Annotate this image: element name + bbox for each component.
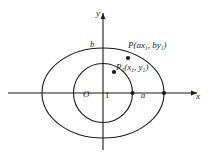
y-semi-axis-label: b: [90, 40, 94, 49]
y-axis-arrow: [101, 13, 106, 19]
coordinate-diagram: [0, 0, 210, 163]
vertex-a-dot: [162, 91, 166, 95]
point-P-label-mid: , by: [148, 40, 161, 50]
point-P1-label-sub2: 1: [131, 67, 134, 73]
point-P-label-sub2: 1: [161, 45, 164, 51]
point-P1-label-mid2: , y: [134, 62, 143, 72]
y-axis-label: y: [96, 9, 100, 18]
x-unit-tick-label: 1: [105, 91, 109, 100]
point-P1-label: P1(x1, y1): [116, 63, 148, 72]
point-P-label-close: ): [164, 40, 167, 50]
point-P-label-base: P(ax: [128, 40, 145, 50]
unit-point-dot: [130, 91, 134, 95]
x-axis-label: x: [196, 92, 200, 101]
point-P-dot: [126, 56, 130, 60]
point-P1-label-sub1: 1: [122, 67, 125, 73]
origin-label: O: [83, 90, 90, 99]
point-P1-label-sub3: 1: [143, 67, 146, 73]
point-P-label: P(ax1, by1): [128, 41, 167, 50]
x-semi-axis-label: a: [141, 91, 145, 100]
point-P-label-sub1: 1: [145, 45, 148, 51]
point-P1-label-base: P: [116, 62, 122, 72]
point-P1-label-close: ): [145, 62, 148, 72]
